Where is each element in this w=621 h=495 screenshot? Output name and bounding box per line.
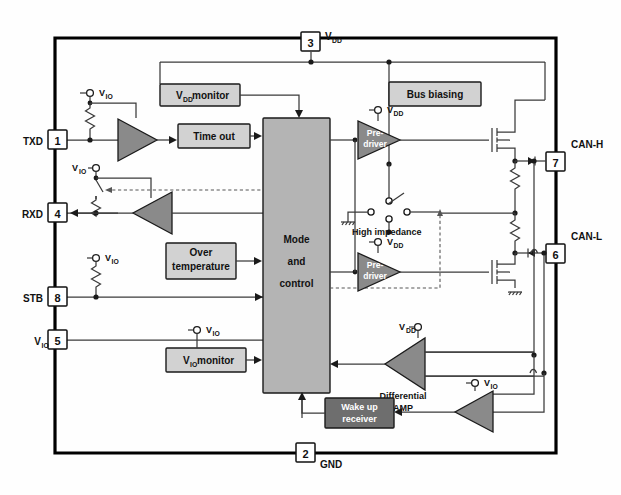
pin-canl-number: 6 — [552, 249, 558, 261]
pin-vio-label-sub: IO — [42, 342, 49, 349]
junction-dot — [93, 294, 98, 299]
wake-up-line1: Wake up — [341, 402, 378, 412]
junction-dot — [541, 250, 546, 255]
arrow-head — [330, 360, 338, 368]
junction-dot — [87, 137, 92, 142]
pin-canh-label: CAN-H — [571, 139, 603, 150]
wake-amp-triangle — [455, 391, 493, 432]
ground-symbol-lowside — [508, 292, 522, 295]
low-side-driver: Pre- driver V DD — [330, 140, 522, 295]
switch-terminal-right — [404, 209, 410, 215]
arrow-head — [254, 257, 262, 265]
split-termination — [440, 161, 520, 256]
vio-label-rxd: V — [72, 163, 78, 173]
pin-gnd[interactable]: 2 GND — [296, 443, 342, 470]
mode-control-line1: Mode — [283, 234, 310, 245]
pin-vio-number: 5 — [54, 335, 60, 347]
switch-terminal-control — [386, 216, 392, 222]
vio-label-stb-sub: IO — [112, 258, 119, 265]
vdd-supply-symbol-predriver-low — [375, 239, 382, 246]
predriver-high-supply-sub: DD — [394, 110, 404, 117]
diff-amp-triangle — [385, 338, 425, 390]
vio-monitor-label2: monitor — [197, 355, 234, 366]
vio-supply-symbol-rxd — [93, 165, 100, 172]
bus-biasing-label: Bus biasing — [407, 89, 464, 100]
mode-control-line2: and — [288, 256, 306, 267]
pin-vio-label: V — [34, 336, 41, 347]
arrow-head-dashed — [105, 187, 112, 193]
arrow-head — [295, 110, 303, 118]
vio-monitor-label: V — [183, 355, 190, 366]
txd-buffer-amp — [118, 119, 157, 161]
bus-sense-taps — [493, 158, 547, 412]
pin-txd-number: 1 — [54, 135, 60, 147]
vdd-supply-symbol-predriver-high — [375, 107, 382, 114]
pin-stb[interactable]: 8 STB — [23, 287, 67, 306]
high-side-driver: Pre- driver V DD — [330, 100, 545, 164]
mode-control-line3: control — [280, 278, 314, 289]
vio-label-txd: V — [99, 88, 105, 98]
pin-rxd[interactable]: 4 RXD — [22, 203, 67, 222]
time-out-block: Time out — [178, 124, 262, 148]
junction-dot — [386, 59, 391, 64]
wake-amp-supply-sub: IO — [491, 383, 498, 390]
arrow-head — [254, 132, 262, 140]
predriver-high-supply: V — [387, 105, 393, 115]
predriver-low-line1: Pre- — [367, 260, 384, 270]
high-impedance-label: High impedance — [352, 227, 422, 237]
arrow-head — [255, 293, 263, 301]
diffamp-input-wires — [425, 352, 544, 376]
vio-supply-symbol-monitor — [194, 327, 201, 334]
arrow-head — [254, 356, 262, 364]
vdd-monitor-block: V DD monitor — [160, 84, 303, 118]
vio-label-rxd-sub: IO — [79, 168, 86, 175]
vio-supply-symbol-txd — [87, 90, 94, 97]
over-temperature-line2: temperature — [172, 261, 230, 272]
pin-stb-number: 8 — [54, 292, 60, 304]
predriver-low-line2: driver — [363, 271, 387, 281]
pin-txd[interactable]: 1 TXD — [23, 130, 67, 149]
arrow-head — [70, 209, 78, 217]
pin-rxd-label: RXD — [22, 209, 43, 220]
vio-supply-symbol-stb — [93, 255, 100, 262]
wake-up-line2: receiver — [342, 414, 377, 424]
pin-canl-label: CAN-L — [571, 231, 602, 242]
vio-label-monitor: V — [206, 325, 212, 335]
over-temperature-line1: Over — [190, 247, 213, 258]
predriver-low-supply: V — [387, 237, 393, 247]
pin-canh-number: 7 — [552, 157, 558, 169]
canl-output-net — [515, 249, 546, 258]
diff-amp-supply: V — [399, 322, 405, 332]
over-temperature-block: Over temperature — [166, 243, 262, 279]
predriver-high-line2: driver — [363, 139, 387, 149]
predriver-low-supply-sub: DD — [394, 242, 404, 249]
diff-amp-supply-sub: DD — [406, 327, 416, 334]
pin-vdd-number: 3 — [307, 37, 313, 49]
switch-terminal-ground — [368, 209, 374, 215]
bus-biasing-block: Bus biasing — [389, 82, 481, 106]
pin-stb-label: STB — [23, 293, 43, 304]
junction-dot — [308, 59, 313, 64]
pin-gnd-number: 2 — [302, 448, 308, 460]
vio-label-monitor-sub: IO — [213, 330, 220, 337]
pin-vdd[interactable]: 3 V DD — [301, 31, 342, 51]
vdd-monitor-label2: monitor — [192, 90, 229, 101]
rxd-buffer-amp — [133, 192, 172, 234]
arrow-head — [169, 136, 177, 144]
junction-dot — [531, 158, 536, 163]
pin-vdd-label: V — [325, 31, 332, 42]
pin-vdd-label-sub: DD — [332, 37, 342, 44]
time-out-label: Time out — [193, 131, 235, 142]
mode-and-control-block: Mode and control — [263, 118, 330, 418]
figure-canvas: 1 TXD 4 RXD 8 STB 5 V IO 3 V DD 2 GND 7 … — [0, 0, 621, 495]
wake-amp-supply: V — [484, 378, 490, 388]
pin-rxd-number: 4 — [54, 208, 61, 220]
vio-label-txd-sub: IO — [106, 93, 113, 100]
vio-label-stb: V — [105, 253, 111, 263]
vio-supply-symbol-wakeamp — [472, 380, 479, 387]
pin-vio[interactable]: 5 V IO — [34, 330, 67, 349]
pin-gnd-label: GND — [320, 459, 342, 470]
predriver-high-line1: Pre- — [367, 128, 384, 138]
ground-symbol-switch — [341, 222, 355, 225]
vdd-monitor-label: V — [176, 90, 183, 101]
